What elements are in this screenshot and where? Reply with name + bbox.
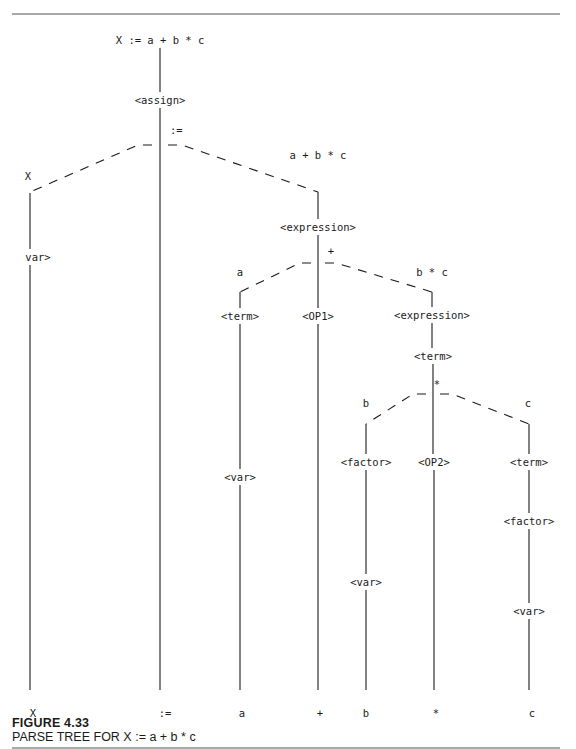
node-var-a: <var> <box>224 471 256 483</box>
node-expression-2: <expression> <box>394 309 470 321</box>
dash-term-right <box>440 394 529 424</box>
dash-expr1-left <box>240 263 311 292</box>
figure-number: FIGURE 4.33 <box>12 716 196 730</box>
node-var-c: <var> <box>513 605 545 617</box>
node-term-a: <term> <box>221 310 259 322</box>
annotation-b-times-c: b * c <box>416 266 448 278</box>
node-op1: <OP1> <box>302 310 334 322</box>
annotation-plus: + <box>328 245 334 257</box>
leaf-c: c <box>529 707 535 719</box>
annotation-star: * <box>434 378 440 390</box>
node-term-bc: <term> <box>414 350 452 362</box>
annotation-a-plus-b-times-c: a + b * c <box>290 149 347 161</box>
annotation-a: a <box>237 266 243 278</box>
dash-assign-left <box>30 145 152 192</box>
parse-tree-diagram: X := a + b * c <assign> := X a + b * c v… <box>0 0 576 749</box>
leaf-star: * <box>433 707 439 719</box>
node-assign: <assign> <box>135 94 186 106</box>
dash-term-left <box>366 394 426 424</box>
node-var-left: var> <box>25 251 50 263</box>
figure-caption: FIGURE 4.33 PARSE TREE FOR X := a + b * … <box>12 716 196 744</box>
node-factor-c: <factor> <box>504 515 555 527</box>
root-label: X := a + b * c <box>116 34 205 46</box>
node-var-b: <var> <box>350 576 382 588</box>
node-expression-1: <expression> <box>280 221 356 233</box>
annotation-assign-op: := <box>170 124 183 136</box>
node-op2: <OP2> <box>418 456 450 468</box>
node-factor-b: <factor> <box>341 456 392 468</box>
leaf-plus: + <box>317 707 323 719</box>
annotation-c: c <box>525 397 531 409</box>
leaf-a: a <box>239 707 245 719</box>
annotation-x: X <box>25 170 32 182</box>
annotation-b: b <box>363 397 369 409</box>
figure-title: PARSE TREE FOR X := a + b * c <box>12 730 196 744</box>
node-term-c: <term> <box>510 456 548 468</box>
leaf-b: b <box>363 707 369 719</box>
